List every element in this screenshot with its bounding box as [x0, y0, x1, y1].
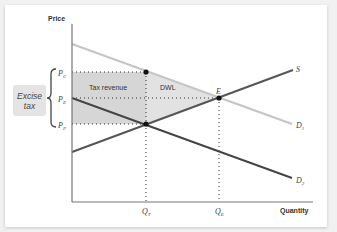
dwl-label: DWL	[160, 84, 176, 91]
curve-label-d1: D1	[295, 121, 304, 131]
excise-brace	[47, 69, 56, 127]
excise-tax-line2: tax	[24, 101, 35, 111]
price-label-pp: PP	[57, 121, 66, 131]
price-label-pc: PC	[57, 69, 67, 79]
price-label-pe: PE	[57, 95, 66, 105]
x-axis-title: Quantity	[280, 207, 308, 215]
curve-label-d2: D2	[295, 176, 305, 186]
point-producer-price	[143, 121, 148, 126]
tax-diagram: Price Quantity PC PE PP QT QE S D1 D2 E …	[0, 0, 337, 232]
point-consumer-price	[143, 69, 148, 74]
point-equilibrium	[216, 95, 221, 100]
tax-revenue-label: Tax revenue	[89, 84, 127, 91]
curve-label-s: S	[296, 65, 300, 74]
excise-tax-annotation: Excise tax	[13, 85, 46, 116]
excise-tax-line1: Excise	[17, 91, 42, 101]
quantity-label-qe: QE	[215, 207, 224, 217]
quantity-label-qt: QT	[142, 207, 152, 217]
equilibrium-label: E	[215, 87, 221, 96]
y-axis-title: Price	[48, 15, 65, 22]
